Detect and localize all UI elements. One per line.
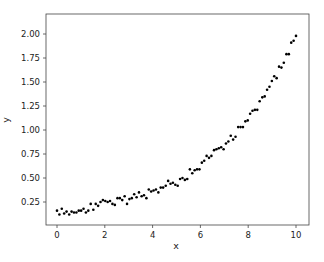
data-point [278,65,281,68]
data-point [92,208,95,211]
scatter-plot: 0246810 0.250.500.751.001.251.501.752.00… [0,0,324,262]
data-point [106,201,109,204]
data-point [186,178,189,181]
data-point [150,190,153,193]
data-point [75,211,78,214]
data-point [201,161,204,164]
data-point [256,109,259,112]
data-point [275,77,278,80]
data-point [162,186,165,189]
data-point [164,184,167,187]
data-point [77,209,80,212]
data-point [157,191,160,194]
data-point [167,180,170,183]
data-point [70,210,73,213]
data-point [131,197,134,200]
data-point [232,138,235,141]
y-tick-label: 0.25 [21,197,40,207]
data-point [128,198,131,201]
data-point [176,184,179,187]
data-point [140,195,143,198]
x-tick-label: 0 [54,230,59,240]
data-point [119,197,122,200]
data-point [222,148,225,151]
data-point [203,159,206,162]
data-point [181,177,184,180]
x-tick-label: 8 [245,230,250,240]
y-tick-label: 2.00 [21,29,40,39]
data-point [121,199,124,202]
data-point [193,169,196,172]
data-point [285,53,288,56]
x-tick-label: 6 [198,230,203,240]
data-point [89,203,92,206]
data-point [208,157,211,160]
data-point [229,134,232,137]
x-tick-label: 2 [102,230,107,240]
data-point [68,213,71,216]
data-point [213,149,216,152]
data-point [60,207,63,210]
y-axis-ticks: 0.250.500.751.001.251.501.752.00 [21,29,46,207]
data-point [123,195,126,198]
y-tick-label: 1.75 [21,53,40,63]
data-point [254,109,257,112]
x-axis-ticks: 0246810 [54,225,301,240]
data-point [246,119,249,122]
data-point [111,203,114,206]
data-point [215,148,218,151]
data-point [251,110,254,113]
data-point [155,188,158,191]
data-point [63,212,66,215]
data-point [263,95,266,98]
data-point [196,168,199,171]
data-point [114,204,117,207]
data-point [138,191,141,194]
data-point [242,126,245,129]
data-point [145,197,148,200]
data-point [80,209,83,212]
data-point [261,96,264,99]
x-tick-label: 10 [291,230,302,240]
data-point [56,209,59,212]
data-point [227,140,230,143]
data-point [244,120,247,123]
data-point [266,88,269,91]
x-axis-label: x [173,240,179,251]
data-point [191,172,194,175]
data-point [205,155,208,158]
data-point [258,100,261,103]
data-point [249,112,252,115]
data-point [280,66,283,69]
data-point [292,39,295,42]
data-point [94,203,97,206]
data-point [234,135,237,138]
data-point [135,196,138,199]
data-point [152,189,155,192]
data-point [159,186,162,189]
data-point [273,75,276,78]
data-point [218,147,221,150]
data-point [99,201,102,204]
data-point [268,86,271,89]
y-tick-label: 0.50 [21,173,40,183]
data-point [198,168,201,171]
data-point [133,193,136,196]
data-point [87,209,90,212]
data-point [225,142,228,145]
data-point [174,183,177,186]
data-point [85,211,88,214]
data-point [82,207,85,210]
y-tick-label: 1.50 [21,77,40,87]
data-point [58,213,61,216]
y-axis-label: y [0,117,11,123]
data-point [189,168,192,171]
data-point [288,53,291,56]
data-point [143,194,146,197]
data-point [295,35,298,38]
data-point [237,126,240,129]
data-point [239,126,242,129]
y-tick-label: 0.75 [21,149,40,159]
data-point [147,188,150,191]
data-point [271,80,274,83]
